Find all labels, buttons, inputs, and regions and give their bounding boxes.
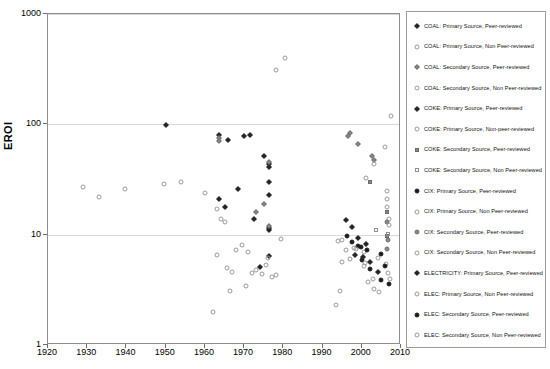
data-point-coke-secondary-peer [368,180,372,184]
legend-marker-circle-open-icon [411,289,422,300]
data-point-cix-secondary-nonpeer [387,223,392,228]
legend-marker-circle-open-icon [411,41,422,52]
x-tick-label-1940: 1940 [115,348,135,357]
data-point-cix-primary-nonpeer [338,288,343,293]
data-point-coal-primary-peer [235,186,241,192]
data-point-coal-primary-nonpeer [259,272,264,277]
data-point-coke-primary-peer [343,217,349,223]
data-point-elec-primary-nonpeer [348,257,353,262]
data-point-coal-primary-peer [266,179,272,185]
data-point-coal-primary-nonpeer [97,194,102,199]
x-tick-label-1920: 1920 [37,348,57,357]
eroi-scatter-figure: EROI 1101001000 192019301940195019601970… [0,0,550,369]
x-tick-label-1960: 1960 [194,348,214,357]
data-point-elec-primary-nonpeer [365,280,370,285]
data-point-coal-primary-nonpeer [210,309,215,314]
data-point-coal-primary-peer [163,122,169,128]
data-point-coal-primary-nonpeer [228,288,233,293]
legend-item-coal-primary-nonpeer[interactable]: COAL: Primary Source, Non Peer-reviewed [411,37,542,58]
data-point-coke-primary-peer [355,235,361,241]
data-point-coal-primary-peer [266,192,272,198]
data-point-coal-primary-peer [251,216,257,222]
x-tick-label-2010: 2010 [390,348,410,357]
data-point-coal-primary-peer [222,204,228,210]
legend-label: ELEC: Primary Source, Non Peer-reviewed [424,291,533,298]
data-point-coal-primary-nonpeer [240,243,245,248]
data-point-coal-primary-nonpeer [263,263,268,268]
circle-open-icon [414,127,419,132]
circle-open-icon [414,333,419,338]
legend-item-coal-secondary-nonpeer[interactable]: COAL: Secondary Source, Non Peer-reviewe… [411,78,542,99]
data-point-coke-primary-peer [349,224,355,230]
legend-marker-circle-open-icon [411,206,422,217]
legend-marker-circle-open-icon [411,124,422,135]
diamond-fill-icon [414,23,420,29]
legend-label: COKE: Secondary Source, Peer-reviewed [424,146,530,153]
legend-item-elec-secondary-nonpeer[interactable]: ELEC: Secondary Source, Non Peer-reviewe… [411,325,542,346]
data-point-coal-secondary-peer [261,201,267,207]
legend-label: COKE: Secondary Source, Non Peer-reviewe… [424,167,542,174]
legend-label: CIX: Primary Source, Peer-reviewed [424,188,516,195]
x-tick-mark-1950 [165,344,166,348]
legend-label: ELEC: Secondary Source, Non Peer-reviewe… [424,332,541,339]
x-tick-mark-2010 [400,344,401,348]
data-point-elec-primary-nonpeer [371,287,376,292]
data-point-elec-secondary-nonpeer [386,270,391,275]
x-tick-label-2000: 2000 [351,348,371,357]
legend-item-elec-secondary-peer[interactable]: ELEC: Secondary Source, Peer-reviewed [411,304,542,325]
data-point-coke-primary-peer [363,241,369,247]
circle-open-icon [414,250,419,255]
data-point-cix-primary-nonpeer [370,276,375,281]
y-tick-label-1000: 1000 [0,9,41,18]
y-tick-label-1: 1 [0,340,41,349]
legend-item-coke-secondary-nonpeer[interactable]: COKE: Secondary Source, Non Peer-reviewe… [411,160,542,181]
legend-item-cix-secondary-nonpeer[interactable]: CIX: Secondary Source, Non Peer-reviewed [411,243,542,264]
data-point-cix-primary-peer [367,266,372,271]
diamond-fill-icon [414,106,420,112]
data-point-coal-primary-nonpeer [265,256,270,261]
data-point-coal-primary-peer [226,137,232,143]
legend-label: ELEC: Secondary Source, Peer-reviewed [424,311,529,318]
legend-item-electricity-primary-peer[interactable]: ELECTRICITY: Primary Source, Peer-review… [411,263,542,284]
legend-marker-circle-open-icon [411,330,422,341]
legend-item-coke-primary-nonpeer[interactable]: COKE: Primary Source, Non-peer-reviewed [411,119,542,140]
legend-item-coke-secondary-peer[interactable]: COKE: Secondary Source, Peer-reviewed [411,140,542,161]
data-point-cix-secondary-peer [385,247,390,252]
data-point-cix-primary-nonpeer [344,247,349,252]
data-point-electricity-primary-peer [368,260,374,266]
data-point-coal-primary-nonpeer [246,249,251,254]
legend-label: COKE: Primary Source, Peer-reviewed [424,105,522,112]
circle-open-icon [414,292,419,297]
data-point-cix-secondary-peer [386,238,391,243]
legend-item-coal-secondary-peer[interactable]: COAL: Secondary Source, Peer-reviewed [411,57,542,78]
data-point-electricity-primary-peer [352,252,358,258]
data-point-coke-secondary-nonpeer [374,228,378,232]
data-point-electricity-primary-peer [360,254,366,260]
data-points-layer [48,14,399,343]
data-point-coal-primary-nonpeer [222,220,227,225]
legend-label: CIX: Secondary Source, Non Peer-reviewed [424,249,535,256]
x-tick-label-1970: 1970 [233,348,253,357]
diamond-fill-icon [414,271,420,277]
legend-item-cix-secondary-peer[interactable]: CIX: Secondary Source, Peer-reviewed [411,222,542,243]
data-point-coal-primary-nonpeer [224,265,229,270]
circle-fill-icon [414,312,419,317]
legend-item-coke-primary-peer[interactable]: COKE: Primary Source, Peer-reviewed [411,98,542,119]
legend-label: COAL: Secondary Source, Peer-reviewed [424,64,529,71]
square-open-icon [415,168,419,172]
legend-marker-square-open-icon [411,165,422,176]
legend-item-cix-primary-nonpeer[interactable]: CIX: Primary Source, Non Peer-reviewed [411,201,542,222]
legend-label: ELECTRICITY: Primary Source, Peer-review… [424,270,543,277]
data-point-coal-primary-nonpeer [244,284,249,289]
data-point-electricity-primary-peer [375,269,381,275]
legend-item-cix-primary-peer[interactable]: CIX: Primary Source, Peer-reviewed [411,181,542,202]
data-point-cix-primary-peer [350,239,355,244]
data-point-coal-primary-nonpeer [122,186,127,191]
data-point-coal-secondary-nonpeer [385,188,390,193]
data-point-cix-primary-nonpeer [336,238,341,243]
legend-item-elec-primary-nonpeer[interactable]: ELEC: Primary Source, Non Peer-reviewed [411,284,542,305]
x-tick-mark-2000 [361,344,362,348]
data-point-coal-primary-nonpeer [234,248,239,253]
legend-item-coal-primary-peer[interactable]: COAL: Primary Source, Peer-reviewed [411,16,542,37]
legend-label: COKE: Primary Source, Non-peer-reviewed [424,126,534,133]
